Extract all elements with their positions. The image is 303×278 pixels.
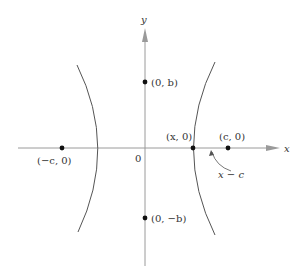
x-axis-label: x xyxy=(284,143,290,154)
x-axis xyxy=(18,145,280,151)
origin-label: 0 xyxy=(135,153,141,164)
y-axis xyxy=(142,28,148,266)
y-axis-label: y xyxy=(140,14,147,25)
y-axis-arrow-icon xyxy=(142,28,148,42)
pos-focus-label: (c, 0) xyxy=(219,131,245,142)
hyperbola-diagram: y x 0 (−c, 0) (c, 0) (x, 0) (0, b) (0, −… xyxy=(0,0,303,278)
vertex-label: (x, 0) xyxy=(166,131,192,142)
neg-focus-point xyxy=(60,146,65,151)
bottom-point-label: (0, −b) xyxy=(151,213,186,224)
pos-focus-point xyxy=(226,146,231,151)
top-point xyxy=(143,80,148,85)
annotation-arrowhead-icon xyxy=(209,150,214,156)
vertex-point xyxy=(191,146,196,151)
bottom-point xyxy=(143,216,148,221)
top-point-label: (0, b) xyxy=(151,77,178,88)
distance-annotation-label: x − c xyxy=(218,169,244,180)
x-axis-arrow-icon xyxy=(266,145,280,151)
neg-focus-label: (−c, 0) xyxy=(37,155,72,166)
